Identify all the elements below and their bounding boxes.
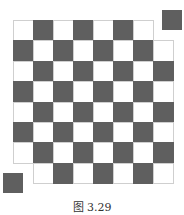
light-square	[133, 102, 154, 123]
dark-square	[33, 102, 54, 123]
light-square	[73, 40, 94, 61]
dark-square	[53, 40, 74, 61]
light-square	[13, 102, 34, 123]
light-square	[33, 163, 54, 184]
light-square	[53, 20, 74, 41]
light-square	[53, 61, 74, 82]
dark-square	[73, 102, 94, 123]
dark-square	[53, 163, 74, 184]
light-square	[93, 142, 114, 163]
dark-square	[13, 81, 34, 102]
dark-square	[153, 102, 174, 123]
figure-caption: 图 3.29	[0, 198, 184, 214]
light-square	[153, 81, 174, 102]
dark-square	[113, 142, 134, 163]
dark-square	[113, 61, 134, 82]
light-square	[113, 122, 134, 143]
light-square	[33, 81, 54, 102]
dark-square	[133, 163, 154, 184]
light-square	[153, 122, 174, 143]
dark-square	[133, 81, 154, 102]
dark-square	[153, 142, 174, 163]
dark-square	[133, 40, 154, 61]
detached-square-top-right	[162, 10, 182, 30]
light-square	[113, 81, 134, 102]
dark-square	[93, 40, 114, 61]
light-square	[73, 81, 94, 102]
light-square	[93, 20, 114, 41]
light-square	[133, 142, 154, 163]
dark-square	[53, 81, 74, 102]
mutilated-chessboard	[0, 0, 184, 215]
light-square	[113, 40, 134, 61]
light-square	[93, 61, 114, 82]
dark-square	[73, 61, 94, 82]
dark-square	[93, 122, 114, 143]
light-square	[133, 20, 154, 41]
light-square	[113, 163, 134, 184]
light-square	[13, 61, 34, 82]
light-square	[33, 40, 54, 61]
dark-square	[153, 61, 174, 82]
light-square	[133, 61, 154, 82]
dark-square	[33, 61, 54, 82]
dark-square	[33, 20, 54, 41]
light-square	[13, 142, 34, 163]
dark-square	[73, 142, 94, 163]
detached-square-bottom-left	[3, 173, 23, 193]
light-square	[73, 122, 94, 143]
dark-square	[113, 102, 134, 123]
light-square	[53, 102, 74, 123]
light-square	[33, 122, 54, 143]
dark-square	[13, 122, 34, 143]
light-square	[13, 20, 34, 41]
dark-square	[53, 122, 74, 143]
dark-square	[113, 20, 134, 41]
dark-square	[93, 163, 114, 184]
light-square	[153, 163, 174, 184]
light-square	[53, 142, 74, 163]
light-square	[153, 40, 174, 61]
light-square	[93, 102, 114, 123]
dark-square	[93, 81, 114, 102]
dark-square	[73, 20, 94, 41]
dark-square	[33, 142, 54, 163]
light-square	[73, 163, 94, 184]
dark-square	[13, 40, 34, 61]
dark-square	[133, 122, 154, 143]
